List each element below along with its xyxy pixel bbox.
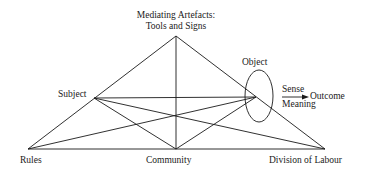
rules-label: Rules <box>20 155 42 166</box>
object-ellipse <box>245 70 273 122</box>
edge-subject-community <box>94 98 176 149</box>
mediating-artefacts-label: Mediating Artefacts: Tools and Signs <box>124 10 228 32</box>
edge-subject-object <box>94 97 256 98</box>
division-of-labour-label: Division of Labour <box>269 155 342 166</box>
subject-label: Subject <box>58 89 87 100</box>
mediating-artefacts-line2: Tools and Signs <box>124 21 228 32</box>
outcome-label: Outcome <box>310 91 345 102</box>
edge-community-object <box>176 97 256 149</box>
community-label: Community <box>146 155 191 166</box>
mediating-artefacts-line1: Mediating Artefacts: <box>124 10 228 21</box>
sense-label: Sense <box>282 84 304 95</box>
object-label: Object <box>242 57 267 68</box>
